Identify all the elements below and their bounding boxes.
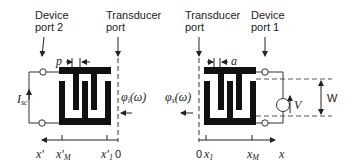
tick-sub: M <box>64 153 71 162</box>
left-axis-tick-x1: x'1 <box>101 148 113 164</box>
transducer-port-right-line2: port <box>185 21 240 33</box>
left-axis-name: x' <box>36 148 44 160</box>
left-circuit-wire <box>29 72 41 123</box>
device-port-2-line1: Device <box>35 9 69 21</box>
left-idt-electrodes <box>59 67 111 125</box>
idt-transducer-diagram: Device port 2 Transducer port p φi(ω) Is… <box>0 0 349 166</box>
left-axis-tick-xm: x'M <box>56 148 71 164</box>
device-port-1-line1: Device <box>251 9 285 21</box>
phi-arg: (ω) <box>175 90 191 104</box>
right-panel <box>181 37 332 142</box>
device-port-1-line2: port 1 <box>251 21 285 33</box>
right-circuit-wire-top <box>268 72 283 98</box>
transducer-port-left-label: Transducer port <box>106 9 161 33</box>
phi-arg: (ω) <box>130 90 146 104</box>
current-sub: sc <box>21 98 28 107</box>
period-label: p <box>56 55 62 67</box>
right-axis-name: x <box>279 148 284 160</box>
transducer-port-left-line1: Transducer <box>106 9 161 21</box>
phi-symbol: φ <box>165 90 172 104</box>
right-axis-tick-zero: 0 <box>196 148 202 160</box>
right-axis-tick-xm: xM <box>247 148 259 164</box>
tick-sub: 1 <box>209 153 213 162</box>
transducer-port-right-label: Transducer port <box>185 9 240 33</box>
aperture-label: W <box>327 92 337 104</box>
port-2-terminal-bottom <box>39 120 45 126</box>
left-axis-tick-zero: 0 <box>115 148 121 160</box>
left-panel <box>29 37 132 142</box>
right-circuit-wire-bottom <box>268 111 283 123</box>
device-port-2-label: Device port 2 <box>35 9 69 33</box>
transducer-port-left-line2: port <box>106 21 161 33</box>
short-circuit-current-label: Isc <box>17 93 28 109</box>
tick-sub: 1 <box>109 153 113 162</box>
device-port-2-line2: port 2 <box>35 21 69 33</box>
right-axis-tick-x1: x1 <box>204 148 213 164</box>
tick-label: x' <box>56 147 64 161</box>
phi-symbol: φ <box>121 90 128 104</box>
port-2-terminal-top <box>40 69 46 75</box>
voltage-source-icon <box>277 99 290 112</box>
transducer-port-right-line1: Transducer <box>185 9 240 21</box>
right-idt-electrodes <box>204 67 256 125</box>
scattered-wave-label: φs(ω) <box>165 91 191 107</box>
port-1-terminal-top <box>262 69 268 75</box>
device-port-2-pointer-icon <box>42 37 44 56</box>
voltage-label: V <box>294 99 301 111</box>
spacing-label: a <box>231 55 237 67</box>
tick-label: x' <box>101 147 109 161</box>
device-port-1-label: Device port 1 <box>251 9 285 33</box>
tick-sub: M <box>252 153 259 162</box>
port-1-terminal-bottom <box>262 120 268 126</box>
incident-wave-label: φi(ω) <box>121 91 146 107</box>
